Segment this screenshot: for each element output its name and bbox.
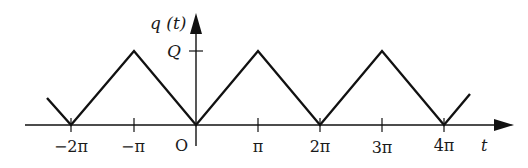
x-tick-label: 2π: [310, 137, 331, 156]
x-tick-label: −2π: [54, 137, 88, 156]
peak-label: Q: [167, 41, 181, 61]
x-tick-label: π: [253, 137, 264, 156]
x-tick-label: 3π: [372, 138, 393, 157]
triangle-waveform: [47, 51, 470, 125]
y-axis-label: q (t): [150, 13, 186, 33]
x-tick-label: −π: [121, 137, 145, 156]
x-axis-arrow-icon: [494, 119, 514, 131]
y-axis-arrow-icon: [190, 13, 202, 34]
origin-label: O: [175, 136, 188, 155]
x-axis-label: t: [481, 136, 488, 155]
x-tick-label: 4π: [434, 136, 455, 155]
triangle-wave-diagram: q (t) Q O t −2π −π π 2π 3π 4π: [0, 0, 528, 168]
